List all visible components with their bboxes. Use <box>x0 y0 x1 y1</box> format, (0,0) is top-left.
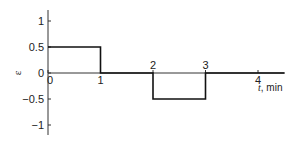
x-tick-label: 1 <box>97 74 103 86</box>
y-tick-label: 0 <box>38 67 44 79</box>
y-tick-label: 0.5 <box>29 41 44 53</box>
y-tick-label: −1 <box>31 119 44 131</box>
x-tick-label: 3 <box>202 59 208 71</box>
y-axis-label: ε <box>11 70 23 75</box>
step-chart: 10.50−0.5−101234εt, min <box>0 0 299 146</box>
x-tick-label: 2 <box>150 59 156 71</box>
x-tick-label: 0 <box>47 74 53 86</box>
y-tick-label: −0.5 <box>22 93 44 105</box>
y-tick-label: 1 <box>38 15 44 27</box>
x-axis-label: t, min <box>258 82 282 93</box>
